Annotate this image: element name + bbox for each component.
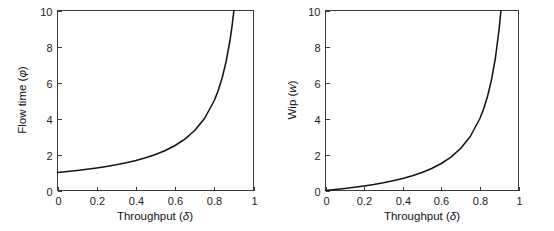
y-tick-label: 6 xyxy=(46,78,52,90)
x-tick-label: 0 xyxy=(55,195,61,207)
x-tick-label: 0.8 xyxy=(473,195,488,207)
x-tick-label: 1 xyxy=(251,195,257,207)
y-tick-label: 4 xyxy=(46,114,52,126)
y-tick-label: 8 xyxy=(46,42,52,54)
y-tick-label: 0 xyxy=(46,186,52,198)
chart-panel-left: 0246810 00.20.40.60.81 Throughput (δ) Fl… xyxy=(0,0,277,231)
data-curve-wip xyxy=(326,11,501,191)
figure-container: 0246810 00.20.40.60.81 Throughput (δ) Fl… xyxy=(0,0,554,231)
y-axis-title-right: Wip (w) xyxy=(286,80,298,119)
x-tick-label: 0.4 xyxy=(129,195,144,207)
y-tick-label: 10 xyxy=(40,6,52,18)
x-tick-label: 0.6 xyxy=(168,195,183,207)
x-tick-label: 0.6 xyxy=(434,195,449,207)
x-axis-ticklabels-left: 00.20.40.60.81 xyxy=(55,195,257,207)
y-tick-label: 8 xyxy=(314,42,320,54)
chart-svg-left: 0246810 00.20.40.60.81 Throughput (δ) Fl… xyxy=(0,0,277,231)
y-axis-ticks-left xyxy=(58,12,62,192)
x-tick-label: 0.2 xyxy=(90,195,105,207)
chart-svg-right: 0246810 00.20.40.60.81 Throughput (δ) Wi… xyxy=(277,0,554,231)
axes-frame-left xyxy=(58,11,254,191)
axes-frame-right xyxy=(326,11,519,191)
y-axis-title-left: Flow time (φ) xyxy=(16,66,28,134)
x-tick-label: 0.8 xyxy=(207,195,222,207)
x-tick-label: 0 xyxy=(323,195,329,207)
x-axis-title-left: Throughput (δ) xyxy=(117,210,193,222)
y-axis-ticks-right xyxy=(326,12,330,192)
x-tick-label: 0.2 xyxy=(357,195,372,207)
y-axis-ticklabels-right: 0246810 xyxy=(308,6,320,198)
x-tick-label: 1 xyxy=(516,195,522,207)
y-tick-label: 2 xyxy=(314,150,320,162)
x-axis-ticks-left xyxy=(59,187,255,191)
y-tick-label: 10 xyxy=(308,6,320,18)
y-tick-label: 4 xyxy=(314,114,320,126)
x-tick-label: 0.4 xyxy=(396,195,411,207)
y-tick-label: 2 xyxy=(46,150,52,162)
y-tick-label: 6 xyxy=(314,78,320,90)
chart-panel-right: 0246810 00.20.40.60.81 Throughput (δ) Wi… xyxy=(277,0,554,231)
y-axis-ticklabels-left: 0246810 xyxy=(40,6,52,198)
y-tick-label: 0 xyxy=(314,186,320,198)
data-curve-flow-time xyxy=(58,11,234,173)
x-axis-title-right: Throughput (δ) xyxy=(384,210,460,222)
x-axis-ticklabels-right: 00.20.40.60.81 xyxy=(323,195,522,207)
